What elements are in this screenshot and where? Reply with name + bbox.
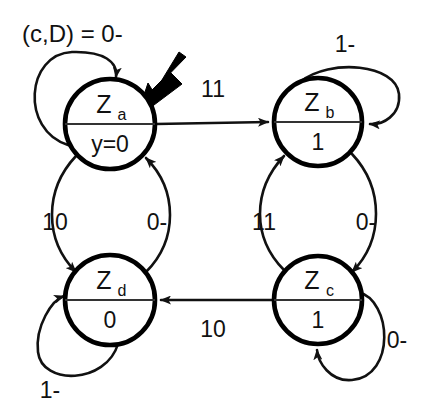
state-zc-subscript: c (326, 282, 334, 299)
state-node-zc[interactable]: Z c 1 (274, 256, 362, 344)
state-zd-subscript: d (118, 282, 127, 299)
state-node-zd[interactable]: Z d 0 (65, 255, 155, 345)
state-zb-name: Z (304, 88, 319, 116)
transition-za-zb (156, 122, 268, 124)
state-diagram: Z a y=0 Z b 1 Z c 1 Z d 0 11 10 10 (0, 0, 423, 417)
state-node-zb[interactable]: Z b 1 (274, 78, 362, 166)
state-za-name: Z (96, 90, 111, 118)
state-diagram-canvas: Z a y=0 Z b 1 Z c 1 Z d 0 11 10 10 (0, 0, 423, 417)
state-za-subscript: a (118, 106, 127, 123)
state-zb-subscript: b (326, 104, 335, 121)
state-zd-name: Z (96, 266, 111, 294)
self-loop-label-zd: 1- (40, 377, 60, 403)
edge-label-za-zd: 10 (42, 209, 68, 235)
state-zc-name: Z (304, 266, 319, 294)
self-loop-label-zc: 0- (387, 327, 407, 353)
self-loop-label-zb: 1- (335, 31, 355, 57)
self-loop-label-za: (c,D) = 0- (22, 20, 123, 47)
state-zd-output: 0 (104, 307, 117, 333)
edge-label-zc-zd: 10 (200, 316, 226, 342)
state-node-za[interactable]: Z a y=0 (65, 79, 155, 169)
edge-label-zc-zb: 11 (252, 209, 276, 235)
state-zc-output: 1 (312, 307, 325, 333)
state-zb-output: 1 (312, 129, 325, 155)
edge-label-zd-za: 0- (147, 209, 167, 235)
state-za-output: y=0 (91, 131, 129, 157)
edge-label-za-zb: 11 (201, 76, 225, 102)
edge-label-zb-zc: 0- (356, 209, 376, 235)
